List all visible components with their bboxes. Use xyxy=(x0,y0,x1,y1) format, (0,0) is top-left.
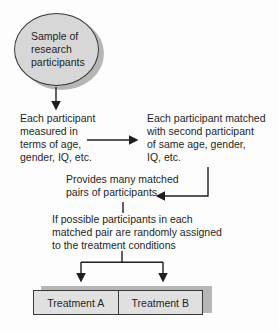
condition-branch-lines xyxy=(81,251,163,262)
treatment-b-box: Treatment B xyxy=(118,291,203,314)
condition-line-3: to the treatment conditions xyxy=(52,239,222,252)
provides-block: Provides many matched pairs of participa… xyxy=(66,173,179,199)
measured-line-1: Each participant xyxy=(20,112,95,125)
sample-ellipse-line-3: participants xyxy=(31,56,98,69)
matched-line-1: Each participant matched xyxy=(147,112,265,125)
measured-line-4: gender, IQ, etc. xyxy=(20,151,95,164)
sample-ellipse: Sample of research participants xyxy=(14,13,99,86)
matched-line-3: of same age, gender, xyxy=(147,138,265,151)
matched-block: Each participant matched with second par… xyxy=(147,112,265,164)
measured-block: Each participant measured in terms of ag… xyxy=(20,112,95,164)
treatment-boxes: Treatment A Treatment B xyxy=(33,290,203,315)
provides-line-2: pairs of participants xyxy=(66,186,179,199)
condition-block: If possible participants in each matched… xyxy=(52,213,222,252)
provides-line-1: Provides many matched xyxy=(66,173,179,186)
condition-line-1: If possible participants in each xyxy=(52,213,222,226)
sample-ellipse-line-2: research xyxy=(31,43,98,56)
sample-ellipse-line-1: Sample of xyxy=(31,30,98,43)
measured-line-3: terms of age, xyxy=(20,138,95,151)
measured-line-2: measured in xyxy=(20,125,95,138)
matched-line-4: IQ, etc. xyxy=(147,151,265,164)
condition-line-2: matched pair are randomly assigned xyxy=(52,226,222,239)
treatment-a-box: Treatment A xyxy=(34,291,118,314)
matched-line-2: with second participant xyxy=(147,125,265,138)
